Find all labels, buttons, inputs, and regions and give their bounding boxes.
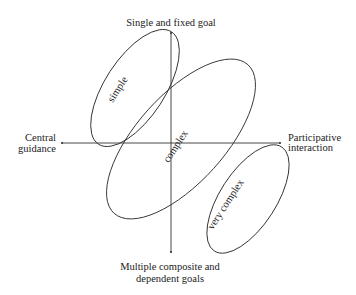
simple-region-label: simple (105, 74, 130, 104)
complexity-diagram: simple complex very complex Single and f… (0, 0, 356, 295)
left-axis-label-line1: Central (25, 132, 56, 143)
right-axis-label-line2: interaction (288, 142, 334, 153)
bottom-axis-label-line2: dependent goals (136, 273, 204, 284)
left-axis-label-line2: guidance (18, 143, 56, 154)
complex-region-label: complex (161, 127, 190, 164)
bottom-axis-label-line1: Multiple composite and (120, 261, 220, 272)
very-complex-region-label: very complex (205, 177, 246, 232)
top-axis-label: Single and fixed goal (126, 17, 216, 28)
